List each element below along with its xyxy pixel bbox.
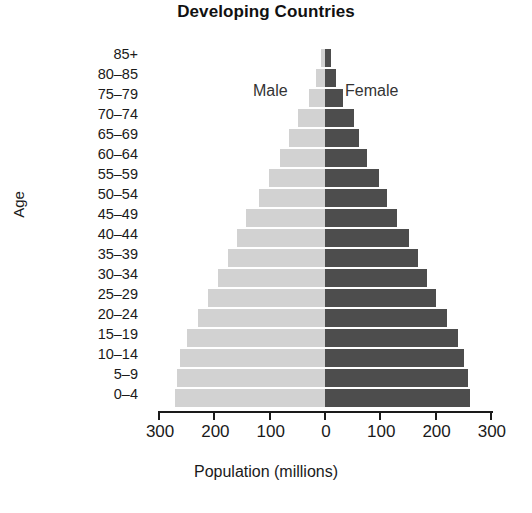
pyramid-row [0, 368, 532, 388]
pyramid-row [0, 48, 532, 68]
pyramid-row [0, 348, 532, 368]
x-axis-tick [379, 411, 381, 420]
bar-female [325, 209, 397, 227]
pyramid-row [0, 148, 532, 168]
pyramid-row [0, 128, 532, 148]
bar-female [325, 49, 331, 67]
bar-male [180, 349, 325, 367]
x-axis-tick-label: 100 [351, 422, 411, 442]
bar-female [325, 309, 447, 327]
x-axis-tick-label: 300 [130, 422, 190, 442]
bar-female [325, 269, 427, 287]
bar-male [246, 209, 325, 227]
bar-male [228, 249, 325, 267]
bar-female [325, 289, 436, 307]
x-axis-tick-label: 200 [185, 422, 245, 442]
bar-male [269, 169, 325, 187]
pyramid-row [0, 388, 532, 408]
bar-male [259, 189, 325, 207]
pyramid-row [0, 228, 532, 248]
bar-female [325, 109, 354, 127]
x-axis-tick-label: 300 [462, 422, 522, 442]
bar-female [325, 169, 379, 187]
bar-female [325, 349, 464, 367]
pyramid-row [0, 208, 532, 228]
x-axis-tick [324, 411, 326, 420]
pyramid-row [0, 108, 532, 128]
bar-female [325, 149, 367, 167]
bar-female [325, 69, 336, 87]
legend-label-female: Female [345, 82, 398, 100]
bar-female [325, 389, 470, 407]
bar-male [280, 149, 325, 167]
bar-male [187, 329, 325, 347]
x-axis-tick [213, 411, 215, 420]
bar-female [325, 329, 458, 347]
bar-male [309, 89, 325, 107]
bar-male [175, 389, 325, 407]
population-pyramid-chart: Developing Countries Age 85+80–8575–7970… [0, 0, 532, 513]
x-axis-tick [490, 411, 492, 420]
x-axis-tick-label: 100 [241, 422, 301, 442]
bar-male [208, 289, 325, 307]
bar-male [289, 129, 325, 147]
x-axis-title: Population (millions) [0, 463, 532, 481]
bar-female [325, 369, 468, 387]
bar-female [325, 189, 387, 207]
bar-female [325, 229, 409, 247]
bar-female [325, 249, 418, 267]
bar-male [198, 309, 325, 327]
x-axis-tick [435, 411, 437, 420]
pyramid-row [0, 328, 532, 348]
bar-male [316, 69, 325, 87]
pyramid-row [0, 308, 532, 328]
pyramid-row [0, 288, 532, 308]
x-axis-tick [158, 411, 160, 420]
x-axis-tick-label: 0 [296, 422, 356, 442]
bar-female [325, 89, 343, 107]
pyramid-row [0, 268, 532, 288]
pyramid-row [0, 168, 532, 188]
x-axis-tick [269, 411, 271, 420]
bar-female [325, 129, 359, 147]
bar-male [177, 369, 325, 387]
pyramid-row [0, 188, 532, 208]
x-axis-tick-label: 200 [407, 422, 467, 442]
bar-male [298, 109, 325, 127]
pyramid-row [0, 248, 532, 268]
bar-male [237, 229, 325, 247]
bar-male [218, 269, 325, 287]
legend-label-male: Male [253, 82, 288, 100]
